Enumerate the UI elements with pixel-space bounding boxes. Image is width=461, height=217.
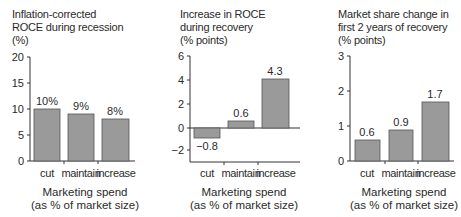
svg-text:3: 3 [338, 50, 344, 62]
bar-maintain [389, 130, 413, 161]
chart-plot: 20 15 10 5 0 10% 9% 8% cut maintain incr… [0, 0, 150, 217]
y-axis-ticks: 3 2 1 0 [338, 50, 350, 167]
chart-roce-recession: Inflation-corrected ROCE during recessio… [0, 0, 150, 217]
chart-plot: 3 2 1 0 0.6 0.9 1.7 cut maintain increas… [300, 0, 461, 217]
svg-text:20: 20 [12, 51, 24, 63]
svg-text:6: 6 [178, 50, 184, 62]
svg-text:1: 1 [338, 120, 344, 132]
bar-cut [194, 128, 220, 138]
svg-text:0.9: 0.9 [393, 116, 408, 128]
bar-cut [34, 109, 60, 161]
y-axis-ticks: 20 15 10 5 0 [12, 51, 30, 167]
svg-text:10%: 10% [36, 95, 58, 107]
svg-text:8%: 8% [107, 105, 123, 117]
svg-text:0: 0 [338, 155, 344, 167]
svg-text:2: 2 [338, 85, 344, 97]
svg-text:increase: increase [256, 167, 295, 179]
x-axis-title: Marketing spend (as % of market size) [188, 186, 300, 212]
chart-market-share: Market share change in first 2 years of … [300, 0, 461, 217]
svg-text:0: 0 [18, 155, 24, 167]
svg-text:maintain: maintain [61, 167, 100, 179]
svg-text:−0.8: −0.8 [196, 140, 218, 152]
svg-text:1.7: 1.7 [427, 88, 442, 100]
svg-text:0: 0 [178, 122, 184, 134]
svg-text:0.6: 0.6 [359, 126, 374, 138]
svg-text:maintain: maintain [381, 167, 420, 179]
svg-text:10: 10 [12, 103, 24, 115]
chart-roce-recovery: Increase in ROCE during recovery (% poin… [150, 0, 305, 217]
bar-maintain [68, 114, 94, 161]
x-axis-title: Marketing spend (as % of market size) [348, 186, 460, 212]
bar-increase [102, 119, 129, 161]
svg-text:cut: cut [40, 167, 54, 179]
svg-text:cut: cut [360, 167, 374, 179]
bar-cut [355, 140, 380, 161]
bar-increase [422, 102, 449, 161]
chart-plot: 6 4 2 0 −2 −0.8 0.6 4.3 cut maintain inc… [150, 0, 305, 217]
svg-text:2: 2 [178, 98, 184, 110]
svg-text:9%: 9% [73, 100, 89, 112]
svg-text:cut: cut [200, 167, 214, 179]
svg-text:maintain: maintain [221, 167, 260, 179]
y-axis-ticks: 6 4 2 0 −2 [171, 50, 190, 156]
svg-text:15: 15 [12, 77, 24, 89]
svg-text:−2: −2 [171, 144, 184, 156]
svg-text:4: 4 [178, 74, 184, 86]
svg-text:0.6: 0.6 [233, 107, 248, 119]
svg-text:4.3: 4.3 [267, 65, 282, 77]
svg-text:5: 5 [18, 129, 24, 141]
x-axis-title: Marketing spend (as % of market size) [30, 186, 140, 212]
bar-maintain [228, 121, 254, 128]
bar-increase [262, 79, 289, 128]
svg-text:increase: increase [416, 167, 455, 179]
svg-text:increase: increase [96, 167, 135, 179]
